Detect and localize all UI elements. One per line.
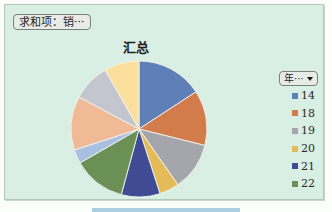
legend-swatch-icon bbox=[292, 110, 298, 116]
legend-item[interactable]: 14 bbox=[292, 87, 315, 105]
legend-label: 19 bbox=[301, 124, 315, 137]
legend-label: 21 bbox=[301, 160, 315, 173]
legend-label: 20 bbox=[301, 142, 315, 155]
value-field-button[interactable]: 求和项：销··· bbox=[13, 14, 91, 30]
pivot-chart-area[interactable]: 求和项：销··· 汇总 年··· 141819202122 bbox=[4, 4, 324, 200]
legend-swatch-icon bbox=[292, 93, 298, 99]
pie-svg bbox=[67, 57, 211, 201]
year-filter-label: 年··· bbox=[284, 72, 304, 85]
legend-item[interactable]: 20 bbox=[292, 140, 315, 158]
chart-legend: 141819202122 bbox=[292, 87, 315, 193]
pie-chart[interactable] bbox=[67, 57, 211, 201]
year-filter-button[interactable]: 年··· bbox=[279, 71, 318, 86]
chart-title: 汇总 bbox=[5, 37, 323, 56]
legend-swatch-icon bbox=[292, 146, 298, 152]
dropdown-caret-icon bbox=[307, 77, 313, 81]
legend-item[interactable]: 19 bbox=[292, 122, 315, 140]
horizontal-scrollbar[interactable] bbox=[92, 208, 240, 212]
legend-label: 14 bbox=[301, 89, 315, 102]
legend-swatch-icon bbox=[292, 163, 298, 169]
value-field-label: 求和项：销··· bbox=[19, 16, 85, 29]
legend-item[interactable]: 18 bbox=[292, 105, 315, 123]
legend-label: 22 bbox=[301, 177, 315, 190]
legend-item[interactable]: 21 bbox=[292, 157, 315, 175]
legend-swatch-icon bbox=[292, 181, 298, 187]
legend-label: 18 bbox=[301, 107, 315, 120]
legend-swatch-icon bbox=[292, 128, 298, 134]
legend-item[interactable]: 22 bbox=[292, 175, 315, 193]
